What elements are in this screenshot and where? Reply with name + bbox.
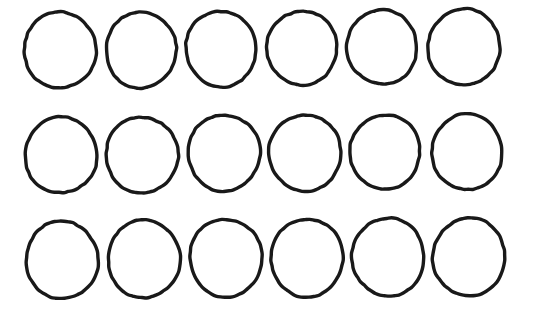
circle-grid-canvas [0, 0, 533, 321]
circle-grid-svg [0, 0, 533, 321]
